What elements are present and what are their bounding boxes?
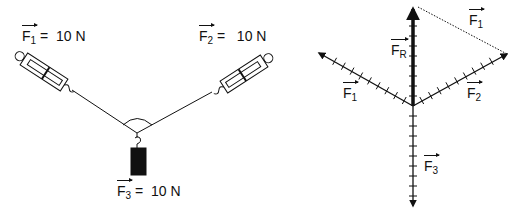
string-right bbox=[137, 92, 212, 133]
left-setup bbox=[12, 48, 276, 175]
label-f3-magnitude: F3 = 10 N bbox=[117, 184, 181, 201]
string-left bbox=[72, 90, 137, 133]
label-f3: F3 bbox=[424, 159, 438, 176]
subscript: 3 bbox=[126, 190, 132, 201]
angle-arc bbox=[123, 119, 152, 126]
label-fr: FR bbox=[391, 43, 407, 60]
label-f1-top: F1 bbox=[469, 13, 483, 30]
vector-symbol-f3: F3 bbox=[117, 184, 131, 201]
vector-f2 bbox=[413, 54, 507, 106]
value-text: = 10 N bbox=[213, 28, 266, 44]
vector-symbol-fr: FR bbox=[391, 43, 407, 60]
symbol: F bbox=[22, 28, 31, 44]
value-text: = 10 N bbox=[36, 28, 85, 44]
subscript: 2 bbox=[476, 92, 482, 103]
vector-symbol-f1-top: F1 bbox=[469, 13, 483, 30]
symbol: F bbox=[391, 42, 400, 58]
subscript: 3 bbox=[433, 165, 439, 176]
vector-symbol-f3-right: F3 bbox=[424, 159, 438, 176]
spring-scale-right bbox=[210, 50, 276, 100]
label-f2-magnitude: F2 = 10 N bbox=[199, 29, 266, 46]
subscript: 1 bbox=[31, 35, 37, 46]
label-f1-side: F1 bbox=[343, 86, 357, 103]
label-f1-magnitude: F1 = 10 N bbox=[22, 29, 86, 46]
symbol: F bbox=[117, 183, 126, 199]
vector-diagram bbox=[319, 7, 507, 206]
spring-scale-left bbox=[12, 48, 78, 98]
vector-symbol-f1-side: F1 bbox=[343, 86, 357, 103]
hanging-mass bbox=[131, 148, 146, 175]
subscript: R bbox=[400, 49, 407, 60]
symbol: F bbox=[469, 12, 478, 28]
vector-symbol-f1: F1 bbox=[22, 29, 36, 46]
vector-symbol-f2-right: F2 bbox=[467, 86, 481, 103]
vector-f1 bbox=[319, 53, 413, 106]
symbol: F bbox=[467, 85, 476, 101]
value-text: = 10 N bbox=[131, 183, 180, 199]
subscript: 1 bbox=[352, 92, 358, 103]
symbol: F bbox=[424, 158, 433, 174]
label-f2: F2 bbox=[467, 86, 481, 103]
symbol: F bbox=[343, 85, 352, 101]
hook bbox=[135, 133, 141, 144]
vector-f1-translated bbox=[418, 7, 507, 54]
subscript: 1 bbox=[478, 19, 484, 30]
subscript: 2 bbox=[208, 35, 214, 46]
symbol: F bbox=[199, 28, 208, 44]
vector-symbol-f2: F2 bbox=[199, 29, 213, 46]
